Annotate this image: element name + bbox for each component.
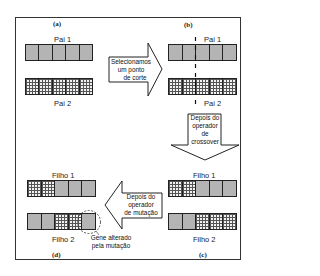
arrow-text-select-cut: Selecionamos um ponto de corte — [110, 58, 152, 82]
arrow-text-crossover: Depois do operador de crossover — [188, 114, 222, 146]
mutation-highlight-circle — [78, 211, 101, 234]
arrow-text-mutation: Depois do operador de mutação — [120, 193, 162, 217]
mutation-annotation: Gene alterado pela mutação — [90, 234, 132, 250]
